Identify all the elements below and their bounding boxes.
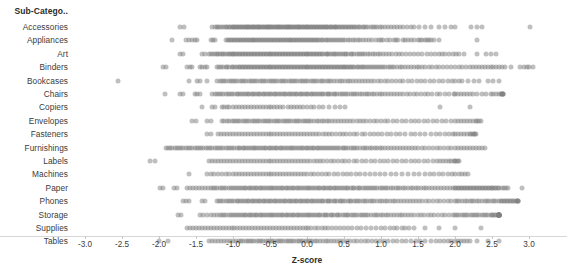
data-point[interactable] [506,185,511,190]
data-point[interactable] [164,65,169,70]
row-label-accessories[interactable]: Accessories [23,22,68,32]
data-point[interactable] [417,172,422,177]
data-point[interactable] [515,199,520,204]
row-label-appliances[interactable]: Appliances [27,35,68,45]
data-point[interactable] [473,132,478,137]
row-label-storage[interactable]: Storage [39,210,68,220]
data-point[interactable] [212,105,217,110]
data-point[interactable] [493,51,498,56]
data-point[interactable] [423,226,428,231]
data-point[interactable] [438,105,443,110]
data-point[interactable] [327,105,332,110]
data-point[interactable] [186,78,191,83]
row-label-envelopes[interactable]: Envelopes [29,116,68,126]
data-point[interactable] [480,25,485,30]
data-point[interactable] [161,185,166,190]
data-point[interactable] [208,118,213,123]
x-axis-title: Z-score [292,255,322,265]
data-point[interactable] [186,199,191,204]
data-point[interactable] [509,65,514,70]
data-point[interactable] [116,78,121,83]
data-point[interactable] [412,226,417,231]
row-label-fasteners[interactable]: Fasteners [31,129,68,139]
x-tick-mark [381,236,382,239]
data-point[interactable] [208,132,213,137]
data-point[interactable] [194,118,199,123]
data-point[interactable] [198,92,203,97]
data-point[interactable] [405,172,410,177]
data-point[interactable] [497,212,502,217]
x-tick-mark [418,236,419,239]
data-point[interactable] [453,226,458,231]
row-label-binders[interactable]: Binders [40,62,68,72]
data-point[interactable] [436,226,441,231]
data-point[interactable] [186,172,191,177]
row-label-copiers[interactable]: Copiers [39,102,68,112]
row-label-art[interactable]: Art [57,49,68,59]
plot-pane[interactable] [74,0,567,236]
row-label-machines[interactable]: Machines [32,169,68,179]
data-point[interactable] [174,185,179,190]
data-point[interactable] [213,38,218,43]
data-point[interactable] [453,25,458,30]
data-point[interactable] [491,78,496,83]
data-point[interactable] [169,38,174,43]
data-point[interactable] [475,51,480,56]
data-point[interactable] [411,172,416,177]
data-point[interactable] [205,65,210,70]
data-point[interactable] [195,38,200,43]
data-point[interactable] [162,92,167,97]
data-point[interactable] [399,172,404,177]
data-point[interactable] [476,78,481,83]
row-label-supplies[interactable]: Supplies [36,223,68,233]
x-tick-mark [344,236,345,239]
data-point[interactable] [182,25,187,30]
data-point[interactable] [530,65,535,70]
data-point[interactable] [466,172,471,177]
data-point[interactable] [467,105,472,110]
data-point[interactable] [519,185,524,190]
x-tick-label: -2.0 [152,240,166,249]
data-point[interactable] [469,25,474,30]
data-point[interactable] [503,65,508,70]
data-point[interactable] [478,118,483,123]
data-point[interactable] [442,25,447,30]
data-point[interactable] [199,105,204,110]
data-point[interactable] [429,25,434,30]
data-point[interactable] [321,105,326,110]
x-tick-mark [270,236,271,239]
data-point[interactable] [461,51,466,56]
data-point[interactable] [393,172,398,177]
row-label-chairs[interactable]: Chairs [44,89,68,99]
data-point[interactable] [478,226,483,231]
data-point[interactable] [501,92,506,97]
data-point[interactable] [153,159,158,164]
data-point[interactable] [475,38,480,43]
row-label-labels[interactable]: Labels [43,156,68,166]
data-point[interactable] [423,25,428,30]
z-score-dot-plot: Sub-Catego.. AccessoriesAppliancesArtBin… [0,0,567,270]
data-point[interactable] [436,38,441,43]
data-point[interactable] [482,145,487,150]
data-point[interactable] [456,159,461,164]
data-point[interactable] [205,78,210,83]
row-label-paper[interactable]: Paper [46,183,68,193]
x-tick-mark [492,236,493,239]
row-label-phones[interactable]: Phones [40,196,68,206]
data-point[interactable] [497,78,502,83]
data-point[interactable] [198,78,203,83]
x-tick-label: 1.0 [375,240,386,249]
data-point[interactable] [180,51,185,56]
data-point[interactable] [417,25,422,30]
data-point[interactable] [343,105,348,110]
row-label-furnishings[interactable]: Furnishings [25,143,68,153]
data-point[interactable] [528,25,533,30]
row-label-bookcases[interactable]: Bookcases [27,76,68,86]
data-point[interactable] [179,212,184,217]
data-point[interactable] [202,199,207,204]
x-tick-label: 2.0 [449,240,460,249]
data-point[interactable] [180,92,185,97]
data-point[interactable] [436,25,441,30]
data-point[interactable] [460,78,465,83]
data-point[interactable] [190,65,195,70]
